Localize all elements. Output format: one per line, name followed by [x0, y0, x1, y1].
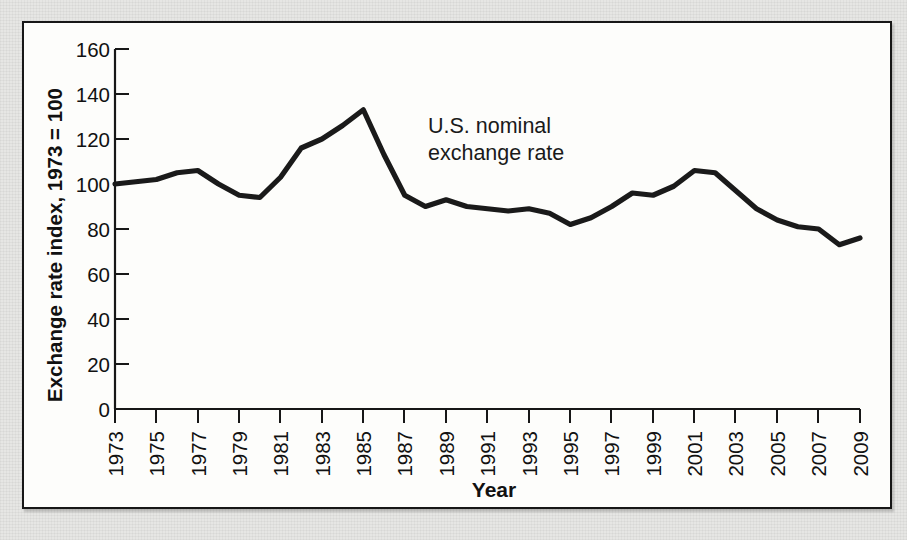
annotation-line-2: exchange rate [428, 141, 564, 165]
x-tick-label: 2003 [724, 431, 747, 477]
y-axis-title: Exchange rate index, 1973 = 100 [43, 88, 66, 402]
x-tick-label: 2007 [807, 431, 830, 477]
x-tick-labels: 1973 1975 1977 1979 1981 1983 1985 1987 … [104, 431, 872, 477]
x-tick-label: 1991 [476, 431, 499, 477]
x-tick-label: 1989 [435, 431, 458, 477]
y-tick-marks [115, 49, 129, 364]
x-tick-label: 2001 [683, 431, 706, 477]
y-tick-labels: 160 140 120 100 80 60 40 20 0 [76, 38, 110, 421]
x-tick-label: 1975 [145, 431, 168, 477]
x-tick-marks [115, 409, 860, 423]
x-tick-label: 1973 [104, 431, 127, 477]
x-tick-label: 1979 [228, 431, 251, 477]
y-tick-label: 60 [87, 263, 110, 286]
y-tick-label: 20 [87, 353, 110, 376]
chart-panel: Exchange rate index, 1973 = 100 160 140 … [22, 21, 892, 509]
figure-root: Exchange rate index, 1973 = 100 160 140 … [0, 0, 907, 540]
exchange-rate-line-chart: Exchange rate index, 1973 = 100 160 140 … [24, 23, 890, 507]
x-tick-label: 1997 [600, 431, 623, 477]
y-tick-label: 160 [76, 38, 110, 61]
x-tick-label: 1985 [352, 431, 375, 477]
x-tick-label: 1981 [269, 431, 292, 477]
y-tick-label: 120 [76, 128, 110, 151]
x-tick-label: 2009 [849, 431, 872, 477]
x-tick-label: 1983 [311, 431, 334, 477]
annotation-line-1: U.S. nominal [428, 114, 551, 138]
x-tick-label: 1977 [187, 431, 210, 477]
x-tick-label: 1995 [559, 431, 582, 477]
x-tick-label: 1987 [393, 431, 416, 477]
y-tick-label: 0 [99, 398, 110, 421]
x-tick-label: 2005 [766, 431, 789, 477]
x-tick-label: 1999 [642, 431, 665, 477]
y-tick-label: 80 [87, 218, 110, 241]
y-tick-label: 140 [76, 83, 110, 106]
y-tick-label: 40 [87, 308, 110, 331]
x-axis-title: Year [472, 478, 516, 501]
y-tick-label: 100 [76, 173, 110, 196]
series-annotation: U.S. nominal exchange rate [428, 114, 564, 165]
x-tick-label: 1993 [518, 431, 541, 477]
